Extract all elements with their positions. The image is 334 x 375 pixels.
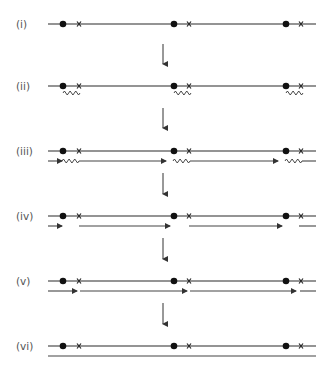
origin-dot-icon (283, 343, 290, 350)
origin-dot-icon (283, 278, 290, 285)
origin-dot-icon (60, 83, 67, 90)
origin-dot-icon (60, 213, 67, 220)
step-label-vi: (vi) (16, 340, 33, 352)
origin-dot-icon (171, 148, 178, 155)
primer-squiggle (173, 159, 190, 163)
origin-dot-icon (171, 83, 178, 90)
primer-squiggle (62, 159, 79, 163)
origin-dot-icon (171, 21, 178, 28)
origin-dot-icon (171, 343, 178, 350)
step-label-i: (i) (16, 18, 27, 30)
origin-dot-icon (171, 278, 178, 285)
origin-dot-icon (60, 148, 67, 155)
diagram-rows (48, 21, 316, 356)
primer-squiggle (63, 91, 80, 95)
primer-squiggle (285, 159, 302, 163)
step-label-iii: (iii) (16, 145, 33, 157)
step-label-iv: (iv) (16, 210, 33, 222)
origin-dot-icon (283, 148, 290, 155)
origin-dot-icon (60, 278, 67, 285)
origin-dot-icon (171, 213, 178, 220)
step-label-ii: (ii) (16, 80, 30, 92)
origin-dot-icon (283, 83, 290, 90)
primer-squiggle (286, 91, 303, 95)
primer-squiggle (174, 91, 191, 95)
origin-dot-icon (283, 21, 290, 28)
origin-dot-icon (60, 343, 67, 350)
step-label-v: (v) (16, 275, 30, 287)
origin-dot-icon (60, 21, 67, 28)
origin-dot-icon (283, 213, 290, 220)
replication-diagram: (i) (ii) (iii) (iv) (v) (vi) (0, 0, 334, 375)
